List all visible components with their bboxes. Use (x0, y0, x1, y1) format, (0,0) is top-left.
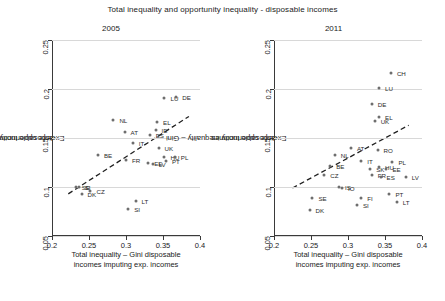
data-point (329, 165, 332, 168)
data-point (360, 196, 363, 199)
gridline-y (52, 89, 200, 90)
data-point-label: PL (181, 153, 189, 160)
data-point-label: CZ (330, 172, 338, 179)
gridline-y (274, 40, 422, 41)
data-point (349, 146, 352, 149)
data-point-label: EE (392, 166, 400, 173)
panel-title-2005: 2005 (0, 24, 222, 33)
x-tick (89, 236, 90, 240)
x-tick (311, 236, 312, 240)
data-point (308, 208, 311, 211)
x-axis-title-line2: incomes imputing exp. incomes (74, 260, 179, 269)
data-point (391, 160, 394, 163)
y-tick-label: 0.15 (264, 138, 273, 153)
x-tick (274, 236, 275, 240)
y-tick-label: 0.25 (42, 40, 51, 55)
x-tick (163, 236, 164, 240)
y-axis-title-left: Ex-ante opportunity inequality – Gini di… (6, 40, 20, 236)
x-tick-label: 0.3 (121, 241, 131, 250)
data-point (404, 176, 407, 179)
data-point-label: IO (348, 184, 355, 191)
x-tick-label: 0.2 (269, 241, 279, 250)
data-point-label: UK (165, 144, 174, 151)
data-point (125, 158, 128, 161)
figure-container: Total inequality and opportunity inequal… (0, 0, 445, 301)
x-tick-label: 0.3 (343, 241, 353, 250)
x-tick-label: 0.25 (304, 241, 319, 250)
data-point-label: AT (357, 144, 364, 151)
data-point (370, 102, 373, 105)
data-point (370, 174, 373, 177)
y-axis-title-right: Ex-ante opportunity inequality – Gini di… (228, 40, 242, 236)
data-point-label: PT (172, 157, 180, 164)
panel-title-2011: 2011 (222, 24, 445, 33)
data-point (373, 120, 376, 123)
x-tick-label: 0.4 (195, 241, 205, 250)
data-point-label: DE (378, 100, 387, 107)
data-point (156, 121, 159, 124)
y-tick-label: 0.2 (42, 89, 51, 99)
data-point (369, 168, 372, 171)
data-point-label: LV (412, 174, 419, 181)
data-point-label: BE (104, 151, 112, 158)
data-point-label: NL (119, 117, 127, 124)
y-tick-label: 0.25 (264, 40, 273, 55)
y-tick-label: 0.15 (42, 138, 51, 153)
data-point-label: IE (162, 127, 168, 134)
x-axis-title-line2: incomes imputing exp. incomes (296, 260, 401, 269)
data-point (77, 186, 80, 189)
data-point (154, 129, 157, 132)
data-point (163, 96, 166, 99)
figure-title: Total inequality and opportunity inequal… (0, 5, 445, 14)
data-point (389, 72, 392, 75)
data-point-label: IT (367, 157, 373, 164)
x-tick (385, 236, 386, 240)
data-point (395, 200, 398, 203)
data-point (355, 203, 358, 206)
data-point (131, 141, 134, 144)
data-point (134, 199, 137, 202)
x-tick-label: 0.4 (417, 241, 427, 250)
data-point (173, 155, 176, 158)
x-axis-title-left: Total inequality – Gini disposable incom… (52, 250, 200, 269)
data-point-label: CZ (96, 187, 104, 194)
data-point (175, 95, 178, 98)
data-point (341, 186, 344, 189)
data-point (151, 163, 154, 166)
data-point (157, 146, 160, 149)
data-point-label: SI (363, 201, 369, 208)
data-point-label: NL (341, 151, 349, 158)
data-point (385, 168, 388, 171)
x-tick (348, 236, 349, 240)
data-point (379, 176, 382, 179)
gridline-y (274, 89, 422, 90)
y-tick-label: 0.1 (264, 187, 273, 197)
data-point-label: CH (397, 70, 406, 77)
data-point (89, 189, 92, 192)
data-point-label: FR (132, 156, 140, 163)
data-point-label: SI (134, 205, 140, 212)
data-point (147, 162, 150, 165)
data-point-label: LU (385, 85, 393, 92)
data-point-label: EL (163, 119, 171, 126)
data-point (123, 131, 126, 134)
data-point-label: BE (336, 163, 344, 170)
y-tick-label: 0.1 (42, 187, 51, 197)
x-axis-title-line1: Total inequality – Gini disposable (293, 250, 402, 259)
gridline-y (52, 40, 200, 41)
data-point (333, 153, 336, 156)
data-point-label: RO (384, 146, 393, 153)
data-point (164, 159, 167, 162)
x-tick-label: 0.2 (47, 241, 57, 250)
x-tick-label: 0.35 (156, 241, 171, 250)
x-tick-label: 0.35 (378, 241, 393, 250)
panel-2011: 2011 Ex-ante opportunity inequality – Gi… (222, 24, 445, 279)
data-point-label: LT (142, 197, 149, 204)
data-point (80, 192, 83, 195)
data-point (148, 134, 151, 137)
data-point-label: PT (395, 190, 403, 197)
data-point (96, 153, 99, 156)
data-point (360, 159, 363, 162)
data-point (323, 174, 326, 177)
x-tick (52, 236, 53, 240)
